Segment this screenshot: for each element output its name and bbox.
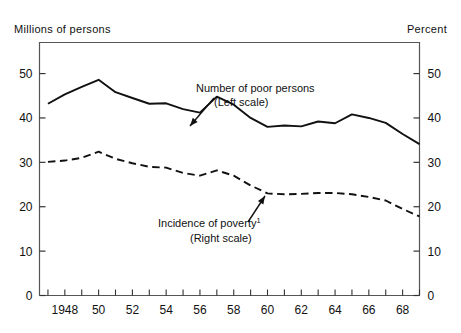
x-tick-label: 52 <box>126 303 140 317</box>
x-tick-label: 1948 <box>51 303 78 317</box>
x-tick-label: 62 <box>295 303 309 317</box>
x-tick-label: 64 <box>328 303 342 317</box>
x-axis: 194850525456586062646668 <box>48 290 420 317</box>
poverty-trend-chart: 01020304050 01020304050 1948505254565860… <box>0 0 461 333</box>
x-tick-label: 60 <box>261 303 275 317</box>
annotation-sublabel-incidence-of-poverty: (Right scale) <box>190 232 252 244</box>
right-tick-label: 20 <box>428 200 442 214</box>
annotation-layer: Number of poor persons(Left scale)Incide… <box>158 82 315 244</box>
annotation-sublabel-number-of-poor-persons: (Left scale) <box>214 96 268 108</box>
right-axis-title: Percent <box>407 23 447 35</box>
annotation-label-number-of-poor-persons: Number of poor persons <box>196 82 315 94</box>
right-tick-label: 40 <box>428 111 442 125</box>
right-tick-label: 0 <box>428 289 435 303</box>
x-tick-label: 54 <box>159 303 173 317</box>
chart-canvas: 01020304050 01020304050 1948505254565860… <box>0 0 461 333</box>
left-tick-label: 20 <box>19 200 33 214</box>
x-tick-label: 56 <box>193 303 207 317</box>
annotation-label-incidence-of-poverty: Incidence of poverty1 <box>158 216 261 229</box>
left-y-axis: 01020304050 <box>19 67 45 303</box>
right-tick-label: 30 <box>428 156 442 170</box>
x-tick-label: 58 <box>227 303 241 317</box>
series-line-incidence-of-poverty <box>48 152 420 217</box>
left-axis-title: Millions of persons <box>14 23 111 35</box>
left-tick-label: 0 <box>26 289 33 303</box>
x-tick-label: 68 <box>396 303 410 317</box>
annotation-arrowhead-incidence-of-poverty <box>258 196 265 204</box>
right-tick-label: 10 <box>428 245 442 259</box>
right-y-axis: 01020304050 <box>414 67 442 303</box>
annotation-footnote-marker: 1 <box>256 216 260 225</box>
left-tick-label: 50 <box>19 67 33 81</box>
x-tick-label: 66 <box>362 303 376 317</box>
right-tick-label: 50 <box>428 67 442 81</box>
left-tick-label: 10 <box>19 245 33 259</box>
x-tick-label: 50 <box>92 303 106 317</box>
left-tick-label: 40 <box>19 111 33 125</box>
left-tick-label: 30 <box>19 156 33 170</box>
